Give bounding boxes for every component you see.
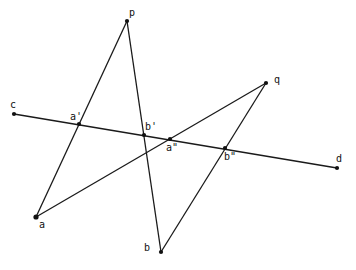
point-c (12, 112, 16, 116)
label-c: c (10, 100, 16, 110)
point-a2 (168, 137, 172, 141)
label-d: d (336, 154, 342, 164)
label-p: p (129, 8, 135, 18)
point-a1 (77, 122, 81, 126)
point-q (264, 81, 268, 85)
point-a (33, 214, 38, 219)
label-q: q (274, 75, 280, 85)
diagram-canvas: pqcdaba'b'a"b" (0, 0, 356, 270)
point-b1 (142, 133, 146, 137)
label-b1: b' (145, 122, 157, 132)
label-b: b (144, 243, 150, 253)
label-a2: a" (166, 143, 178, 153)
label-b2: b" (224, 152, 236, 162)
point-b (159, 250, 163, 254)
segment-q-b (161, 83, 266, 252)
construction-lines (0, 0, 356, 270)
point-p (125, 19, 129, 23)
point-b2 (223, 146, 227, 150)
label-a1: a' (70, 112, 82, 122)
point-d (335, 166, 339, 170)
label-a: a (39, 220, 45, 230)
